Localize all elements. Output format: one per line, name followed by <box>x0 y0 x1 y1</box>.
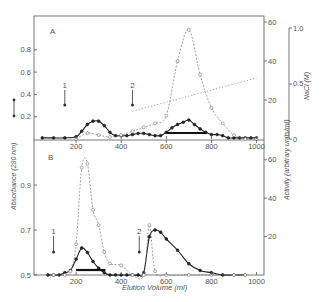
absorbance-point <box>154 134 157 137</box>
absorbance-point <box>137 132 140 135</box>
absorbance-point <box>199 269 202 272</box>
activity-point <box>92 208 95 211</box>
absorbance-point <box>114 274 117 277</box>
y-tick-label-b: 0.9 <box>21 181 31 190</box>
nacl-tick-label: 1.0 <box>293 24 303 33</box>
x-tick-label-a: 1000 <box>248 142 265 151</box>
absorbance-point <box>103 271 106 274</box>
absorbance-point <box>165 238 168 241</box>
absorbance-point <box>131 133 134 136</box>
activity-point <box>86 132 89 135</box>
y-tick-label-a: 0.6 <box>21 68 31 77</box>
absorbance-point <box>125 274 128 277</box>
y-axis-left-title: Absorbance (280 nm) <box>10 143 18 211</box>
arrow-label: 2 <box>130 81 135 90</box>
activity-point <box>63 274 66 277</box>
x-tick-label-a: 400 <box>115 142 128 151</box>
activity-point <box>176 60 179 63</box>
absorbance-point <box>109 274 112 277</box>
absorbance-point <box>227 136 230 139</box>
y-axis-right-title: Activity (arbitrary units/ml) <box>283 119 291 201</box>
activity-point <box>148 224 151 227</box>
absorbance-point <box>187 262 190 265</box>
x-tick-label-b: 1000 <box>248 277 265 286</box>
absorbance-point <box>41 136 44 139</box>
absorbance-point <box>148 133 151 136</box>
y-tick-label-b: 0.7 <box>21 226 31 235</box>
activity-point <box>221 122 224 125</box>
activity-point <box>52 274 55 277</box>
activity-point <box>187 274 190 277</box>
panel-a: 12 <box>41 28 258 140</box>
activity-point <box>108 136 111 139</box>
absorbance-point <box>47 274 50 277</box>
y-right-tick-label: 40 <box>268 57 276 66</box>
activity-point <box>187 28 190 31</box>
panel-a-label: A <box>50 27 56 36</box>
y-tick-label-a: 0.4 <box>21 90 31 99</box>
absorbance-point <box>176 123 179 126</box>
y-right-tick-label: 40 <box>268 194 276 203</box>
nacl-tick-label: 0.5 <box>293 79 303 88</box>
absorbance-point <box>216 133 219 136</box>
absorbance-point <box>221 134 224 137</box>
y-tick-label-a: 0.8 <box>21 45 31 54</box>
absorbance-point <box>97 120 100 123</box>
x-tick-label-b: 800 <box>205 277 218 286</box>
activity-point <box>199 73 202 76</box>
activity-point <box>69 270 72 273</box>
panel-b-label: B <box>48 153 53 162</box>
activity-point <box>232 134 235 137</box>
y-right-tick-label: 20 <box>268 232 276 241</box>
absorbance-point <box>249 136 252 139</box>
activity-point <box>97 224 100 227</box>
absorbance-point <box>125 134 128 137</box>
activity-point <box>131 274 134 277</box>
absorbance-point <box>210 133 213 136</box>
x-tick-label-a: 200 <box>70 142 83 151</box>
y-axis-nacl-title: NaCl (M) <box>303 72 311 100</box>
absorbance-point <box>109 131 112 134</box>
activity-point <box>165 114 168 117</box>
panel-b: 12 <box>47 158 247 279</box>
activity-point <box>154 122 157 125</box>
activity-point <box>232 274 235 277</box>
activity-point <box>142 274 145 277</box>
nacl-gradient-line <box>132 78 256 111</box>
x-tick-label-a: 800 <box>205 142 218 151</box>
y-tick-label-b: 0.5 <box>21 271 31 280</box>
absorbance-point <box>159 134 162 137</box>
activity-point <box>97 134 100 137</box>
x-tick-label-b: 200 <box>70 277 83 286</box>
absorbance-point <box>86 123 89 126</box>
activity-point <box>75 243 78 246</box>
y-tick-label-a: 0.2 <box>21 112 31 121</box>
absorbance-point <box>80 130 83 133</box>
activity-point <box>154 270 157 273</box>
absorbance-point <box>176 249 179 252</box>
activity-point <box>103 250 106 253</box>
arrow-label: 1 <box>63 81 68 90</box>
absorbance-point <box>80 247 83 250</box>
nacl-tick-label: 0 <box>293 135 297 144</box>
absorbance-point <box>142 132 145 135</box>
absorbance-point <box>52 136 55 139</box>
absorbance-point <box>86 251 89 254</box>
x-tick-label-a: 600 <box>160 142 173 151</box>
absorbance-point <box>199 128 202 131</box>
absorbance-point <box>159 231 162 234</box>
absorbance-point <box>182 121 185 124</box>
elution-chart: 12 12 200200400400600600800800100010000.… <box>0 0 322 302</box>
activity-point <box>131 130 134 133</box>
activity-point <box>244 274 247 277</box>
absorbance-point <box>92 120 95 123</box>
absorbance-point <box>154 229 157 232</box>
activity-point <box>210 106 213 109</box>
y-right-tick-label: 20 <box>268 96 276 105</box>
absorbance-point <box>63 136 66 139</box>
arrow-label: 1 <box>51 227 56 236</box>
activity-point <box>108 262 111 265</box>
absorbance-point <box>103 124 106 127</box>
activity-point <box>244 138 247 141</box>
arrow-label: 2 <box>137 227 142 236</box>
